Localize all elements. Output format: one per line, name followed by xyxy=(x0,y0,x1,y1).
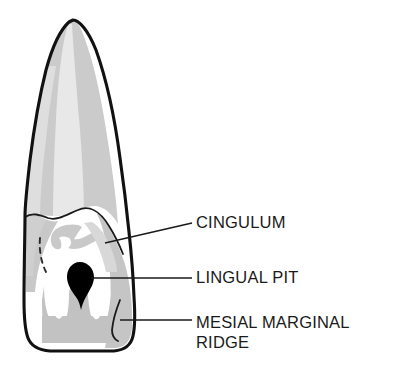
tooth-anatomy-diagram: CINGULUM LINGUAL PIT MESIAL MARGINAL RID… xyxy=(0,0,400,382)
label-mesial-marginal-ridge-line2: RIDGE xyxy=(196,333,249,351)
incisal-band-shading xyxy=(42,316,114,343)
label-group: CINGULUM LINGUAL PIT MESIAL MARGINAL RID… xyxy=(196,213,350,351)
label-lingual-pit: LINGUAL PIT xyxy=(196,268,298,286)
label-cingulum: CINGULUM xyxy=(196,213,286,231)
label-mesial-marginal-ridge-line1: MESIAL MARGINAL xyxy=(196,313,350,331)
